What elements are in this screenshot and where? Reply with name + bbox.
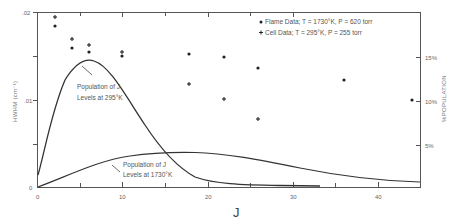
x-axis-ticks	[81, 182, 379, 187]
population-1730k-curve	[38, 152, 420, 187]
x-tick-label: 20	[205, 194, 212, 200]
y2-axis-ticks	[416, 58, 420, 146]
x-tick-label: 40	[375, 194, 382, 200]
y-tick-label: .01	[24, 98, 33, 104]
y-tick-label: .02	[22, 10, 31, 16]
y-axis-title: HWHM (cm⁻¹)	[12, 81, 18, 122]
x-tick-label: 0	[36, 194, 40, 200]
legend-cell-marker	[259, 31, 263, 35]
y2-tick-label: 15%	[425, 55, 438, 61]
annotation-295k-line2: Levels at 295°K	[77, 94, 123, 101]
legend-flame-marker	[260, 21, 263, 24]
x-tick-label: 30	[290, 194, 297, 200]
annotation-1730k-line2: Levels at 1730°K	[123, 171, 173, 178]
hwhm-population-chart: .02 .01 0 HWHM (cm⁻¹) 0 10 20 30 40 J 15…	[0, 0, 456, 223]
y2-axis-title: %POPULATION	[441, 75, 447, 122]
y2-tick-label: 5%	[425, 143, 434, 149]
legend-flame-label: Flame Data; T = 1730°K, P = 620 torr	[265, 18, 373, 25]
annotation-295k-pointer	[82, 66, 92, 75]
annotation-295k-line1: Population of J	[77, 83, 120, 91]
y2-tick-label: 10%	[425, 99, 438, 105]
x-axis-title: J	[233, 205, 240, 220]
y-tick-label: 0	[29, 185, 33, 191]
x-tick-label: 10	[119, 194, 126, 200]
population-295k-curve	[38, 60, 320, 186]
annotation-1730k-line1: Population of J	[123, 161, 166, 169]
annotation-1730k-pointer	[112, 165, 120, 172]
legend-cell-label: Cell Data; T = 295°K, P = 255 torr	[265, 29, 363, 36]
y-axis-ticks	[33, 13, 37, 145]
